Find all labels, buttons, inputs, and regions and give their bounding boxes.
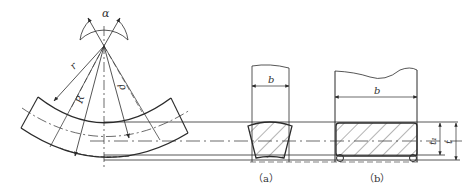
alpha-label: α (102, 7, 110, 20)
inner-edge (38, 97, 171, 123)
outer-edge (21, 128, 188, 157)
radius-rho (104, 46, 129, 138)
caption-a: （a） (253, 173, 279, 184)
bending-diagram: α r R ρ b b t₁ t （a） （b） (0, 0, 473, 194)
R-label: R (73, 94, 86, 106)
caption-b: （b） (364, 173, 390, 184)
r-label: r (68, 59, 80, 71)
section-b (330, 68, 425, 165)
rho-label: ρ (117, 81, 130, 91)
b-label-b: b (374, 85, 380, 96)
t1-label: t₁ (427, 137, 438, 145)
t-label: t (443, 139, 454, 144)
b-label-a: b (268, 74, 274, 85)
bent-bar-view (21, 18, 190, 168)
